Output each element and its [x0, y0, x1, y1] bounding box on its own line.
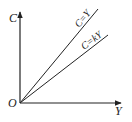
diagram-canvas: C Y O C=Y C=kY: [0, 0, 132, 122]
horizontal-axis-label: Y: [115, 104, 123, 118]
origin-label: O: [8, 96, 17, 110]
line-c-equals-y: [20, 9, 98, 103]
line-c-equals-ky: [20, 35, 108, 103]
vertical-axis-label: C: [9, 11, 18, 25]
